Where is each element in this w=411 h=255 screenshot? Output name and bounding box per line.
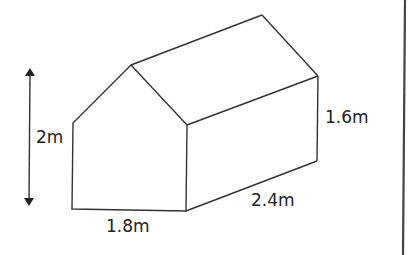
wall-height-label: 1.6m (325, 107, 369, 127)
front-gable-face (72, 65, 187, 211)
eave-edge (187, 76, 318, 125)
back-wall-vertical-edge (317, 76, 318, 161)
length-label: 2.4m (251, 190, 295, 210)
height-dimension-arrow (29, 72, 30, 202)
total-height-label: 2m (36, 127, 63, 147)
page-border-line (403, 0, 405, 255)
roof-ridge-edge (131, 15, 262, 65)
house-prism-diagram: 2m 1.6m 1.8m 2.4m (0, 0, 411, 255)
width-label: 1.8m (106, 216, 150, 236)
back-roof-slope-edge (262, 15, 318, 76)
